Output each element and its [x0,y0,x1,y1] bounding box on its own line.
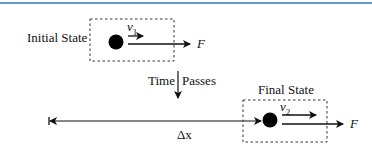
force-label-final: F [350,116,358,132]
time-label: Time [148,73,175,89]
initial-state-label: Initial State [27,30,87,46]
initial-ball [109,35,124,50]
v2-subscript: 2 [286,107,291,117]
final-ball [263,113,278,128]
v1-subscript: 1 [133,27,138,37]
v2-label: v2 [280,99,290,117]
displacement-label: Δx [177,127,192,143]
final-state-label: Final State [258,82,314,98]
passes-label: Passes [182,73,216,89]
force-label-initial: F [197,36,205,52]
v1-label: v1 [127,19,137,37]
